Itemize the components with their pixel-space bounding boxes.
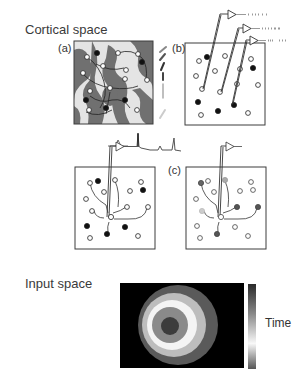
diagram-canvas [0,0,306,380]
spike-trace [108,133,181,151]
spike-raster-b [248,14,286,42]
orientation-legend-bars [160,47,166,118]
panel-b-recording [185,10,286,125]
panel-a-orientation-map [74,41,153,124]
time-colorbar [248,284,256,369]
panel-c-right-connectivity [186,142,266,249]
panel-c-left-connectivity [75,146,155,249]
input-stimulus-rings [120,283,244,368]
